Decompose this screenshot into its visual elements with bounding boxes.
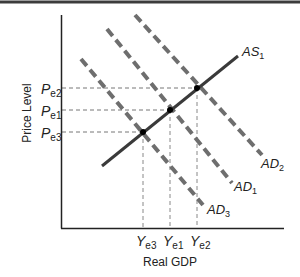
x-axis-title: Real GDP (143, 255, 197, 269)
price-label-pe2: Pe2 (41, 81, 62, 99)
price-guide-lines (62, 88, 197, 132)
y-axis-title: Price Level (20, 83, 34, 142)
output-label-ye1: Ye1 (163, 233, 184, 251)
price-label-pe1: Pe1 (41, 103, 62, 121)
ad1-label: AD1 (233, 179, 257, 196)
equilibrium-point-e1 (167, 107, 173, 113)
price-label-pe3: Pe3 (41, 125, 62, 143)
equilibrium-point-e3 (140, 129, 146, 135)
output-label-ye3: Ye3 (136, 233, 157, 251)
equilibrium-point-e2 (194, 85, 200, 91)
as1-label: AS1 (241, 44, 264, 61)
ad2-label: AD2 (260, 156, 284, 173)
output-label-ye2: Ye2 (190, 233, 211, 251)
ad3-label: AD3 (206, 202, 230, 219)
ad-as-diagram: Pe2 Pe1 Pe3 Ye3 Ye1 Ye2 AS1 AD2 AD1 AD3 … (0, 0, 300, 277)
